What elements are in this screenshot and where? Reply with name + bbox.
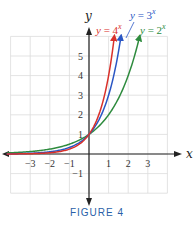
curve-label-3-pow-x: y = 3x	[129, 7, 156, 21]
y-tick-label: 2	[78, 109, 83, 120]
x-tick-label: 3	[145, 158, 150, 169]
y-tick-label: 5	[78, 51, 83, 62]
axes: xy	[2, 9, 193, 206]
y-axis-down-arrow-icon	[86, 198, 92, 206]
y-axis-label: y	[84, 9, 92, 23]
x-tick-label: −3	[25, 158, 36, 169]
curve-label-2-pow-x: y = 2x	[139, 22, 166, 36]
y-tick-label: 4	[78, 70, 83, 81]
x-tick-label: 2	[126, 158, 131, 169]
y-axis-arrow-icon	[86, 27, 92, 35]
x-tick-label: 1	[106, 158, 111, 169]
x-axis-label: x	[186, 147, 193, 161]
figure-caption: FIGURE 4	[0, 207, 194, 218]
x-axis-arrow-icon	[174, 151, 182, 157]
curve-labels: y = 2xy = 3xy = 4x	[95, 7, 166, 38]
x-tick-label: −2	[44, 158, 55, 169]
y-tick-label: 3	[78, 90, 83, 101]
label-pointer	[126, 22, 134, 38]
y-tick-label: −1	[72, 168, 83, 179]
curve-label-4-pow-x: y = 4x	[95, 22, 122, 36]
exponential-functions-chart: xy −3−2−1123−112345 y = 2xy = 3xy = 4x	[0, 0, 194, 226]
